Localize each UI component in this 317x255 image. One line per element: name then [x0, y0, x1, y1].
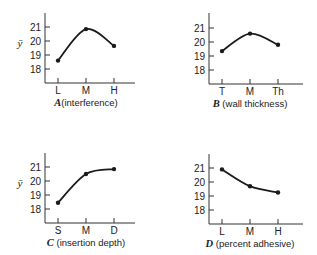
data-point — [220, 167, 224, 171]
data-point — [56, 201, 60, 205]
y-tick-label: 19 — [30, 190, 42, 201]
y-tick-label: 18 — [30, 204, 42, 215]
effect-curve — [58, 29, 114, 61]
y-tick-label: 19 — [30, 50, 42, 61]
x-category-label: T — [219, 86, 225, 97]
x-category-label: D — [110, 225, 117, 236]
x-category-label: M — [246, 86, 254, 97]
panel-d: 18192021LMHD (percent adhesive) — [194, 154, 303, 249]
x-axis-title: C (insertion depth) — [47, 237, 125, 248]
x-category-label: H — [274, 226, 281, 237]
x-category-label: M — [82, 85, 90, 96]
panel-b: 18192021TMThB (wall thickness) — [194, 13, 303, 109]
y-tick-label: 20 — [30, 176, 42, 187]
y-tick-label: 21 — [30, 162, 42, 173]
x-category-label: S — [55, 225, 62, 236]
y-tick-label: 18 — [194, 205, 206, 216]
y-tick-label: 21 — [30, 22, 42, 33]
panel-c: 18192021SMDC (insertion depth)ȳ — [17, 153, 135, 248]
y-tick-label: 19 — [194, 51, 206, 62]
data-point — [220, 49, 224, 53]
y-tick-label: 20 — [30, 36, 42, 47]
y-tick-label: 21 — [194, 163, 206, 174]
y-tick-label: 21 — [194, 23, 206, 34]
data-point — [248, 31, 252, 35]
y-tick-label: 19 — [194, 191, 206, 202]
x-axis-title: D (percent adhesive) — [205, 238, 295, 249]
x-category-label: M — [246, 226, 254, 237]
y-tick-label: 20 — [194, 37, 206, 48]
x-category-label: Th — [272, 86, 284, 97]
data-point — [56, 58, 60, 62]
x-axis-title: B (wall thickness) — [212, 98, 288, 109]
data-point — [276, 190, 280, 194]
data-point — [112, 167, 116, 171]
y-tick-label: 20 — [194, 177, 206, 188]
data-point — [84, 172, 88, 176]
y-tick-label: 18 — [30, 64, 42, 75]
data-point — [276, 43, 280, 47]
data-point — [84, 27, 88, 31]
data-point — [112, 44, 116, 48]
effect-curve — [222, 169, 278, 192]
panel-a: 18192021LMHA(interference)ȳ — [17, 13, 135, 108]
effect-curve — [222, 34, 278, 52]
x-category-label: M — [82, 225, 90, 236]
x-category-label: H — [110, 85, 117, 96]
data-point — [248, 184, 252, 188]
y-tick-label: 18 — [194, 65, 206, 76]
y-axis-label: ȳ — [17, 177, 24, 189]
main-effects-plots: 18192021LMHA(interference)ȳ18192021TMThB… — [0, 0, 317, 255]
x-axis-title: A(interference) — [53, 97, 118, 108]
y-axis-label: ȳ — [17, 37, 24, 49]
x-category-label: L — [219, 226, 225, 237]
x-category-label: L — [55, 85, 61, 96]
